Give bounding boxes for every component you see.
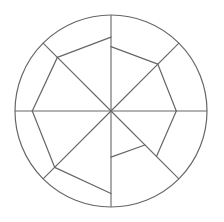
series-segment	[158, 64, 176, 111]
spoke-nw	[43, 43, 111, 111]
series-segment	[57, 37, 111, 57]
series-segment	[55, 167, 111, 193]
series-segment	[156, 111, 176, 156]
spoke-ne	[111, 43, 179, 111]
radar-series	[32, 37, 176, 193]
series-segment	[32, 111, 54, 167]
series-segment	[32, 57, 57, 111]
series-segment	[111, 145, 145, 157]
series-segment	[111, 47, 158, 64]
radar-grid	[15, 15, 207, 207]
radar-chart	[0, 0, 224, 222]
spoke-sw	[43, 111, 111, 179]
